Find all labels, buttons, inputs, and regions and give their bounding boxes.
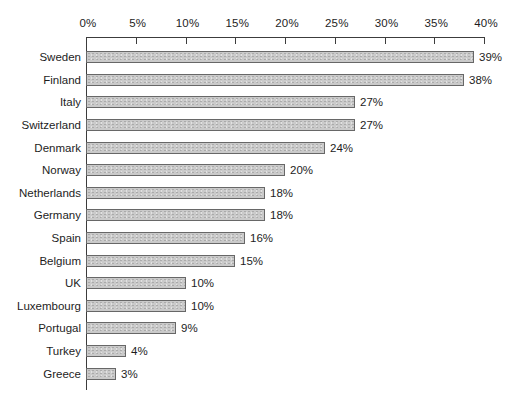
category-label: Greece xyxy=(0,362,81,385)
value-label: 39% xyxy=(479,46,502,69)
category-label: Netherlands xyxy=(0,182,81,205)
bar xyxy=(86,119,355,131)
x-axis-tick-label: 0% xyxy=(79,17,96,29)
x-axis-tick xyxy=(484,37,485,44)
bar xyxy=(86,232,245,244)
category-label: Italy xyxy=(0,91,81,114)
bar-row: Finland38% xyxy=(0,69,518,92)
bar xyxy=(86,322,176,334)
bar-row: Norway20% xyxy=(0,159,518,182)
value-label: 4% xyxy=(131,340,148,363)
x-axis-tick-label: 35% xyxy=(424,17,448,29)
bar xyxy=(86,255,235,267)
bar-row: Denmark24% xyxy=(0,136,518,159)
x-axis-tick xyxy=(86,37,87,44)
bar-chart-figure: 0%5%10%15%20%25%30%35%40% Sweden39%Finla… xyxy=(0,0,518,403)
bar xyxy=(86,51,474,63)
bar-row: Turkey4% xyxy=(0,340,518,363)
bar xyxy=(86,164,285,176)
value-label: 20% xyxy=(290,159,313,182)
bar-row: Italy27% xyxy=(0,91,518,114)
value-label: 15% xyxy=(240,249,263,272)
value-label: 18% xyxy=(270,204,293,227)
value-label: 18% xyxy=(270,182,293,205)
category-label: Norway xyxy=(0,159,81,182)
bar xyxy=(86,187,265,199)
value-label: 24% xyxy=(330,136,353,159)
bar-row: Sweden39% xyxy=(0,46,518,69)
value-label: 10% xyxy=(191,272,214,295)
category-label: Turkey xyxy=(0,340,81,363)
bar xyxy=(86,74,464,86)
x-axis-tick-label: 40% xyxy=(474,17,498,29)
x-axis-tick xyxy=(335,37,336,44)
x-axis-tick xyxy=(285,37,286,44)
category-label: Portugal xyxy=(0,317,81,340)
bar-row: Germany18% xyxy=(0,204,518,227)
x-axis-tick xyxy=(235,37,236,44)
bar xyxy=(86,209,265,221)
bar-row: Switzerland27% xyxy=(0,114,518,137)
bar-row: Greece3% xyxy=(0,362,518,385)
x-axis-tick xyxy=(136,37,137,44)
category-label: Luxembourg xyxy=(0,295,81,318)
x-axis-tick-label: 5% xyxy=(129,17,146,29)
value-label: 16% xyxy=(250,227,273,250)
bar-row: Belgium15% xyxy=(0,249,518,272)
value-label: 3% xyxy=(121,362,138,385)
bar xyxy=(86,277,186,289)
bar xyxy=(86,368,116,380)
value-label: 9% xyxy=(181,317,198,340)
x-axis-tick xyxy=(434,37,435,44)
bar-row: Netherlands18% xyxy=(0,182,518,205)
bar xyxy=(86,345,126,357)
category-label: Denmark xyxy=(0,136,81,159)
bar-row: Spain16% xyxy=(0,227,518,250)
category-label: Germany xyxy=(0,204,81,227)
category-label: Sweden xyxy=(0,46,81,69)
x-axis-tick xyxy=(186,37,187,44)
value-label: 38% xyxy=(469,69,492,92)
value-label: 10% xyxy=(191,295,214,318)
x-axis-tick xyxy=(385,37,386,44)
bar xyxy=(86,142,325,154)
bar xyxy=(86,96,355,108)
bar-row: UK10% xyxy=(0,272,518,295)
category-label: Finland xyxy=(0,69,81,92)
category-label: Belgium xyxy=(0,249,81,272)
x-axis-tick-label: 10% xyxy=(176,17,200,29)
x-axis-tick-label: 15% xyxy=(225,17,249,29)
category-label: UK xyxy=(0,272,81,295)
category-label: Switzerland xyxy=(0,114,81,137)
bar-row: Luxembourg10% xyxy=(0,295,518,318)
bar xyxy=(86,300,186,312)
value-label: 27% xyxy=(360,114,383,137)
x-axis-tick-label: 30% xyxy=(375,17,399,29)
x-axis-tick-label: 20% xyxy=(275,17,299,29)
bar-row: Portugal9% xyxy=(0,317,518,340)
x-axis-tick-label: 25% xyxy=(325,17,349,29)
category-label: Spain xyxy=(0,227,81,250)
value-label: 27% xyxy=(360,91,383,114)
